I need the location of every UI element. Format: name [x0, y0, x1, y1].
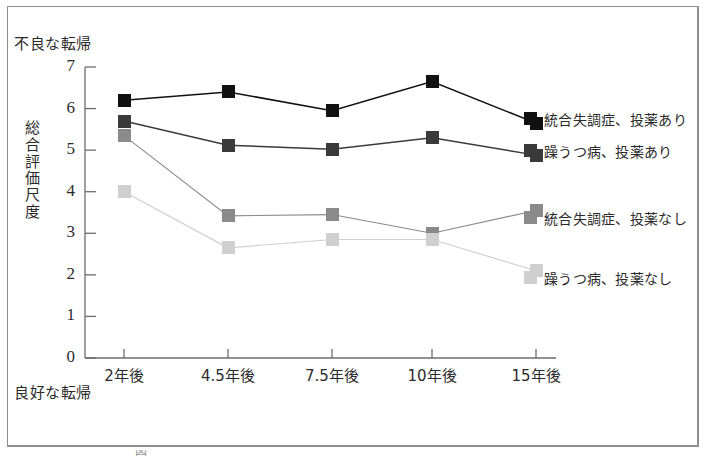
- legend-leader-lines: [530, 118, 536, 277]
- legend-label: 躁うつ病、投薬あり: [544, 141, 673, 161]
- x-axis-tick-label: 4.5年後: [183, 364, 273, 385]
- x-axis-tick-label: 15年後: [491, 364, 581, 385]
- data-point-marker: [222, 139, 235, 152]
- legend-label: 統合失調症、投薬あり: [544, 109, 687, 129]
- figure-caption-strip: 図: [0, 450, 705, 458]
- legend-swatch: [524, 271, 537, 284]
- line-chart-plot: [0, 0, 705, 458]
- y-axis-tick-label: 3: [53, 222, 75, 242]
- legend-swatch: [524, 112, 537, 125]
- data-point-marker: [222, 241, 235, 254]
- legend-label: 統合失調症、投薬なし: [544, 208, 687, 228]
- data-point-marker: [222, 209, 235, 222]
- x-axis-ticks: [124, 349, 536, 358]
- legend-label: 躁うつ病、投薬なし: [544, 268, 673, 288]
- data-point-marker: [326, 208, 339, 221]
- series-line: [124, 192, 536, 271]
- x-axis-tick-label: 10年後: [387, 364, 477, 385]
- x-axis-tick-label: 2年後: [79, 364, 169, 385]
- data-point-marker: [118, 185, 131, 198]
- x-axis-tick-label: 7.5年後: [287, 364, 377, 385]
- data-point-marker: [118, 115, 131, 128]
- chart-axes: [85, 67, 556, 358]
- data-point-marker: [326, 143, 339, 156]
- legend-swatch: [524, 211, 537, 224]
- y-axis-tick-label: 7: [53, 56, 75, 76]
- y-axis-tick-label: 5: [53, 139, 75, 159]
- data-point-marker: [326, 104, 339, 117]
- y-axis-tick-label: 4: [53, 181, 75, 201]
- y-axis-tick-label: 1: [53, 305, 75, 325]
- legend-swatch: [524, 144, 537, 157]
- figure-caption: 図: [135, 450, 147, 458]
- y-axis-tick-label: 6: [53, 98, 75, 118]
- figure-canvas: 不良な転帰 良好な転帰 総合評価尺度 01234567 2年後4.5年後7.5年…: [0, 0, 705, 458]
- y-axis-tick-label: 2: [53, 264, 75, 284]
- data-point-marker: [118, 129, 131, 142]
- data-point-marker: [222, 85, 235, 98]
- data-point-marker: [118, 94, 131, 107]
- data-point-marker: [426, 131, 439, 144]
- data-point-marker: [426, 75, 439, 88]
- data-point-marker: [326, 233, 339, 246]
- y-axis-tick-label: 0: [53, 347, 75, 367]
- data-point-marker: [426, 233, 439, 246]
- y-axis-ticks: [85, 67, 96, 358]
